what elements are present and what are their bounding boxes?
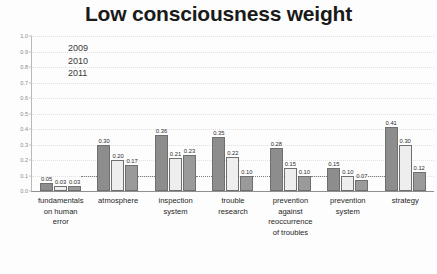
bar-2011[interactable] [355, 180, 368, 191]
bar-group: 0.350.220.10 [204, 36, 261, 191]
bar-2011[interactable] [183, 155, 196, 191]
bar-2010[interactable] [399, 145, 412, 192]
category-label-line: system [144, 207, 207, 218]
bar-2010[interactable] [169, 158, 182, 191]
bar-2009[interactable] [212, 137, 225, 191]
x-axis-category-label: atmosphere [86, 196, 149, 207]
category-label-line: fundamentals [29, 196, 92, 207]
bar-value-label: 0.20 [112, 153, 123, 159]
plot-area: 1.00.90.80.70.60.50.40.30.20.10.0 0.050.… [32, 36, 434, 191]
bar-value-label: 0.36 [156, 128, 167, 134]
category-label-line: strategy [374, 196, 437, 207]
category-label-line: trouble [201, 196, 264, 207]
bar-2009[interactable] [385, 127, 398, 191]
category-label-line: on human [29, 207, 92, 218]
category-label-line: of troubles [259, 228, 322, 239]
bar-value-label: 0.21 [170, 151, 181, 157]
bar-2010[interactable] [284, 168, 297, 191]
bar-2011[interactable] [413, 172, 426, 191]
legend-item: 2009 [68, 42, 88, 55]
bar-value-label: 0.22 [227, 150, 238, 156]
chart-legend: 200920102011 [68, 42, 88, 80]
bar-value-label: 0.03 [55, 179, 66, 185]
bar-value-label: 0.35 [213, 130, 224, 136]
chart-screenshot: Low consciousness weight 1.00.90.80.70.6… [0, 0, 437, 274]
category-label-line: prevention [259, 196, 322, 207]
bars: 0.350.220.10 [204, 36, 261, 191]
bar-value-label: 0.10 [241, 169, 252, 175]
category-label-line: inspection [144, 196, 207, 207]
bar-2009[interactable] [97, 145, 110, 192]
bar-2010[interactable] [111, 160, 124, 191]
bar-2009[interactable] [327, 168, 340, 191]
bar-group: 0.360.210.23 [147, 36, 204, 191]
category-label-line: against [259, 207, 322, 218]
legend-item: 2011 [68, 67, 88, 80]
x-axis-line [31, 191, 434, 192]
bar-value-label: 0.07 [356, 173, 367, 179]
bar-value-label: 0.15 [285, 161, 296, 167]
x-axis-category-label: strategy [374, 196, 437, 207]
bar-value-label: 0.30 [98, 138, 109, 144]
category-label-line: prevention [316, 196, 379, 207]
reference-line-segment [368, 176, 384, 177]
bar-2009[interactable] [270, 148, 283, 191]
bar-2011[interactable] [298, 176, 311, 192]
bar-value-label: 0.05 [41, 176, 52, 182]
bar-value-label: 0.41 [386, 120, 397, 126]
bar-value-label: 0.15 [328, 161, 339, 167]
bar-value-label: 0.30 [400, 138, 411, 144]
reference-line-segment [311, 176, 327, 177]
bar-group: 0.410.300.12 [377, 36, 434, 191]
bar-2011[interactable] [240, 176, 253, 192]
bars: 0.410.300.12 [377, 36, 434, 191]
category-label-line: research [201, 207, 264, 218]
category-label-line: atmosphere [86, 196, 149, 207]
category-label-line: error [29, 217, 92, 228]
bar-value-label: 0.23 [184, 148, 195, 154]
bar-value-label: 0.28 [271, 141, 282, 147]
bar-2009[interactable] [40, 183, 53, 191]
bar-value-label: 0.12 [414, 165, 425, 171]
category-label-line: reoccurrence [259, 217, 322, 228]
x-axis-category-label: preventionsystem [316, 196, 379, 217]
bar-group: 0.150.100.07 [319, 36, 376, 191]
x-axis-category-label: fundamentalson humanerror [29, 196, 92, 228]
bar-value-label: 0.03 [69, 179, 80, 185]
bar-2011[interactable] [68, 186, 81, 191]
bar-value-label: 0.10 [342, 169, 353, 175]
x-axis-category-label: troubleresearch [201, 196, 264, 217]
bars: 0.150.100.07 [319, 36, 376, 191]
bar-group: 0.280.150.10 [262, 36, 319, 191]
bar-2010[interactable] [341, 176, 354, 192]
x-axis-category-label: inspectionsystem [144, 196, 207, 217]
bar-2010[interactable] [54, 186, 67, 191]
bars: 0.280.150.10 [262, 36, 319, 191]
reference-line-segment [81, 176, 97, 177]
bar-2011[interactable] [125, 165, 138, 191]
bar-value-label: 0.10 [299, 169, 310, 175]
reference-line-segment [253, 176, 269, 177]
category-label-line: system [316, 207, 379, 218]
bar-value-label: 0.17 [126, 158, 137, 164]
reference-line-segment [138, 176, 154, 177]
bar-2009[interactable] [155, 135, 168, 191]
page-title: Low consciousness weight [0, 2, 437, 26]
bar-group: 0.300.200.17 [89, 36, 146, 191]
x-axis-category-label: preventionagainstreoccurrenceof troubles [259, 196, 322, 238]
bars: 0.360.210.23 [147, 36, 204, 191]
legend-item: 2010 [68, 55, 88, 68]
reference-line-segment [196, 176, 212, 177]
bar-2010[interactable] [226, 157, 239, 191]
bars: 0.300.200.17 [89, 36, 146, 191]
